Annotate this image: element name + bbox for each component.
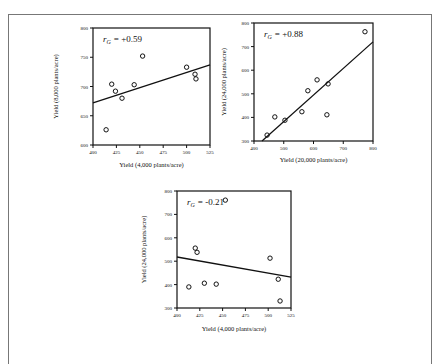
x-tick-label: 600 [310,146,318,151]
x-tick-label: 475 [159,150,167,155]
y-tick-label: 800 [81,26,89,31]
y-tick-label: 400 [242,115,250,120]
data-point [132,83,136,87]
y-axis-label: Yield (24,000 plants/acre) [140,216,148,284]
data-point [194,77,198,81]
y-tick-label: 800 [165,189,173,194]
correlation-annotation: rG= -0.21 [187,197,224,208]
y-tick-label: 750 [81,55,89,60]
x-tick-label: 425 [113,150,121,155]
regression-line [262,42,373,141]
correlation-annotation: rG= +0.88 [264,29,304,40]
plot-area [254,23,373,141]
y-tick-label: 700 [165,212,173,217]
x-tick-label: 400 [173,313,181,318]
y-tick-label: 400 [165,283,173,288]
data-point [195,250,199,254]
data-point [193,72,197,76]
data-point [214,282,218,286]
x-tick-label: 525 [287,313,295,318]
x-tick-label: 475 [242,313,250,318]
data-point [306,89,310,93]
y-tick-label: 300 [165,306,173,311]
x-axis-label: Yield (20,000 plants/acre) [280,156,348,164]
data-point [325,113,329,117]
data-point [110,82,114,86]
x-axis-label: Yield (4,000 plants/acre) [202,325,266,333]
scatter-chart-2: 400500600700800300400500600700800rG= +0.… [220,21,377,164]
x-tick-label: 450 [136,150,144,155]
data-point [113,89,117,93]
data-point [140,54,144,58]
y-tick-label: 300 [242,139,250,144]
data-point [276,277,280,281]
data-point [120,96,124,100]
x-tick-label: 425 [196,313,204,318]
y-tick-label: 650 [81,114,89,119]
x-tick-label: 525 [206,150,214,155]
x-tick-label: 400 [89,150,97,155]
data-point [363,30,367,34]
y-tick-label: 700 [242,45,250,50]
data-point [278,299,282,303]
y-tick-label: 700 [81,85,89,90]
x-tick-label: 500 [183,150,191,155]
data-point [268,256,272,260]
regression-line [177,257,291,277]
correlation-annotation: rG= +0.59 [103,34,143,45]
x-tick-label: 450 [219,313,227,318]
x-tick-label: 500 [280,146,288,151]
y-tick-label: 600 [165,236,173,241]
x-tick-label: 700 [340,146,348,151]
x-tick-label: 500 [264,313,272,318]
x-tick-label: 400 [250,146,258,151]
data-point [184,65,188,69]
scatter-chart-1: 400425450475500525600650700750800rG= +0.… [52,26,214,169]
y-tick-label: 600 [242,68,250,73]
x-axis-label: Yield (4,000 plants/acre) [119,161,183,169]
y-tick-label: 500 [242,92,250,97]
data-point [300,110,304,114]
data-point [202,281,206,285]
scatter-chart-3: 400425450475500525300400500600700800rG= … [140,189,295,333]
y-axis-label: Yield (8,000 plants/acre) [52,54,60,118]
data-point [273,115,277,119]
y-tick-label: 800 [242,21,250,26]
y-tick-label: 600 [81,143,89,148]
regression-line [93,65,210,103]
data-point [104,128,108,132]
x-tick-label: 800 [369,146,377,151]
y-axis-label: Yield (24,000 plants/acre) [220,48,228,116]
data-point [187,285,191,289]
data-point [315,78,319,82]
y-tick-label: 500 [165,259,173,264]
